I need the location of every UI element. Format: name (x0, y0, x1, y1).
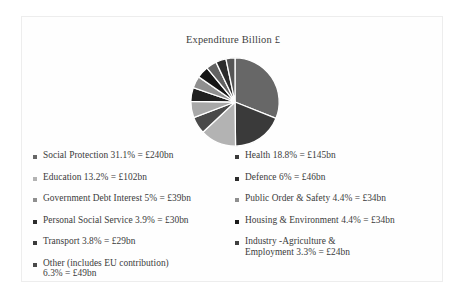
legend-right-item: Defence 6% = £46bn (235, 172, 440, 194)
legend-right-item: Public Order & Safety 4.4% = £34bn (235, 193, 440, 215)
chart-legend: Social Protection 31.1% = £240bnEducatio… (22, 150, 444, 281)
legend-swatch-icon (235, 241, 239, 245)
legend-label: Defence 6% = £46bn (245, 172, 325, 183)
legend-swatch-icon (235, 198, 239, 202)
legend-swatch-icon (235, 155, 239, 159)
legend-column-left: Social Protection 31.1% = £240bnEducatio… (33, 150, 243, 288)
legend-label: Education 13.2% = £102bn (43, 172, 147, 183)
legend-left-item: Government Debt Interest 5% = £39bn (33, 193, 243, 215)
legend-left-item: Personal Social Service 3.9% = £30bn (33, 215, 243, 237)
chart-title: Expenditure Billion £ (22, 34, 444, 45)
pie-chart (189, 56, 281, 148)
legend-label: Industry -Agriculture & Employment 3.3% … (245, 236, 350, 258)
legend-right-item: Housing & Environment 4.4% = £34bn (235, 215, 440, 237)
legend-label: Public Order & Safety 4.4% = £34bn (245, 193, 386, 204)
legend-label: Personal Social Service 3.9% = £30bn (43, 215, 189, 226)
legend-label: Transport 3.8% = £29bn (43, 236, 136, 247)
legend-left-item: Social Protection 31.1% = £240bn (33, 150, 243, 172)
pie-chart-svg (189, 56, 281, 148)
legend-right-item: Industry -Agriculture & Employment 3.3% … (235, 236, 440, 266)
legend-swatch-icon (33, 263, 37, 267)
legend-label: Health 18.8% = £145bn (245, 150, 336, 161)
legend-swatch-icon (235, 220, 239, 224)
legend-left-item: Education 13.2% = £102bn (33, 172, 243, 194)
legend-swatch-icon (33, 155, 37, 159)
legend-label: Government Debt Interest 5% = £39bn (43, 193, 191, 204)
legend-swatch-icon (33, 241, 37, 245)
legend-swatch-icon (33, 220, 37, 224)
legend-label: Social Protection 31.1% = £240bn (43, 150, 174, 161)
legend-right-item: Health 18.8% = £145bn (235, 150, 440, 172)
chart-frame: Expenditure Billion £ Social Protection … (21, 16, 443, 282)
legend-column-right: Health 18.8% = £145bnDefence 6% = £46bnP… (235, 150, 440, 266)
legend-swatch-icon (33, 198, 37, 202)
legend-swatch-icon (33, 177, 37, 181)
legend-left-item: Transport 3.8% = £29bn (33, 236, 243, 258)
legend-swatch-icon (235, 177, 239, 181)
legend-left-item: Other (includes EU contribution) 6.3% = … (33, 258, 243, 288)
legend-label: Housing & Environment 4.4% = £34bn (245, 215, 395, 226)
legend-label: Other (includes EU contribution) 6.3% = … (43, 258, 169, 280)
chart-figure: Expenditure Billion £ Social Protection … (0, 0, 467, 288)
